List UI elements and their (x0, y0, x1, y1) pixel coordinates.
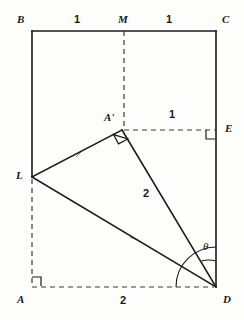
vertex-label-D: D (223, 294, 231, 305)
right-angle-marks (32, 130, 215, 286)
angle-label-theta: θ (203, 241, 208, 252)
vertex-label-M: M (118, 14, 128, 25)
segment-Aprime-D (122, 130, 216, 287)
dashed-segments (32, 31, 216, 287)
geometry-canvas (0, 0, 244, 320)
vertex-label-A: A (17, 294, 24, 305)
right-angle-at-E-icon (206, 130, 215, 139)
measure-label-Aprime-D: 2 (143, 188, 149, 199)
vertex-label-B: B (17, 14, 24, 25)
vertex-label-L: L (16, 170, 23, 181)
segment-L-D (32, 177, 216, 287)
measure-label-MC: 1 (166, 14, 172, 25)
right-angle-at-A-icon (32, 277, 41, 286)
measure-label-Aprime-E: 1 (169, 109, 175, 120)
vertex-label-E: E (225, 123, 232, 134)
vertex-label-C: C (222, 14, 229, 25)
geometry-figure: B M C E A' L A D 1 1 1 2 2 θ (0, 0, 244, 320)
vertex-label-A-prime: A' (104, 112, 114, 123)
segment-L-Aprime (32, 130, 122, 177)
measure-label-A-D: 2 (120, 295, 126, 306)
tick-marks (76, 151, 137, 240)
theta-arc-inner-icon (202, 260, 217, 261)
measure-label-BM: 1 (74, 14, 80, 25)
